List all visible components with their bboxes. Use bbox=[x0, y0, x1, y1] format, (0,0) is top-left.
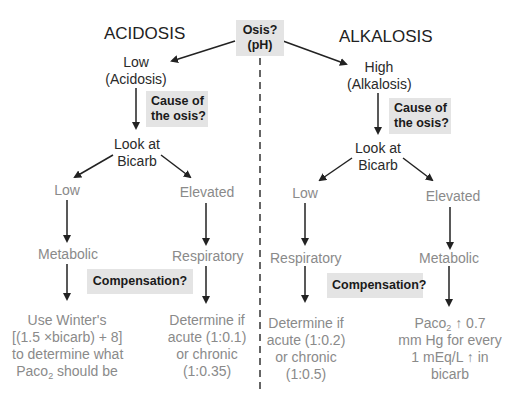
root-line1: Osis? bbox=[241, 23, 279, 38]
acidosis-respiratory-rule: Determine if acute (1:0.1) or chronic (1… bbox=[166, 312, 248, 380]
alkalosis-ph-node: High (Alkalosis) bbox=[347, 59, 411, 93]
alkalosis-respiratory: Respiratory bbox=[270, 250, 340, 267]
alkalosis-look-bicarb: Look at Bicarb bbox=[350, 140, 406, 174]
acidosis-title: ACIDOSIS bbox=[104, 25, 185, 42]
root-osis-box: Osis? (pH) bbox=[236, 20, 284, 56]
alkalosis-title: ALKALOSIS bbox=[339, 28, 433, 45]
acidosis-low-label: Low bbox=[52, 182, 82, 199]
alkalosis-metabolic: Metabolic bbox=[418, 250, 480, 267]
root-line2: (pH) bbox=[241, 38, 279, 53]
alkalosis-compensation-box: Compensation? bbox=[327, 273, 423, 298]
acidosis-compensation-box: Compensation? bbox=[87, 269, 193, 294]
alkalosis-low-label: Low bbox=[290, 185, 320, 202]
acidosis-elevated-label: Elevated bbox=[178, 184, 236, 201]
acidosis-ph-node: Low (Acidosis) bbox=[105, 54, 167, 88]
alkalosis-respiratory-rule: Determine if acute (1:0.2) or chronic (1… bbox=[266, 315, 346, 383]
acidosis-metabolic-rule: Use Winter's [(1.5 ×bicarb) + 8] to dete… bbox=[12, 312, 122, 380]
acidosis-cause-box: Cause of the osis? bbox=[146, 91, 208, 127]
acidosis-metabolic: Metabolic bbox=[37, 246, 99, 263]
alkalosis-metabolic-rule: Paco2 ↑ 0.7 mm Hg for every 1 mEq/L ↑ in… bbox=[398, 315, 502, 383]
alkalosis-elevated-label: Elevated bbox=[424, 188, 482, 205]
alkalosis-cause-box: Cause of the osis? bbox=[389, 98, 451, 134]
acidosis-respiratory: Respiratory bbox=[172, 248, 242, 265]
acidosis-look-bicarb: Look at Bicarb bbox=[109, 136, 165, 170]
